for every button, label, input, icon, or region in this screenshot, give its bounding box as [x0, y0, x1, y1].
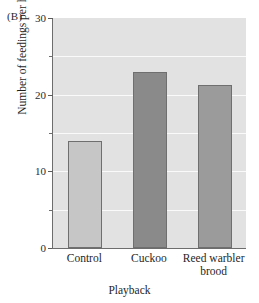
plot-area: 0102030 [52, 18, 246, 248]
x-axis-line [52, 248, 246, 249]
bar-1 [68, 141, 102, 248]
y-tick-minor [49, 133, 53, 134]
category-label-3: Reed warbler brood [181, 252, 246, 277]
figure-panel-b: (B) 0102030 ControlCuckooReed warbler br… [0, 0, 259, 303]
y-tick-minor [49, 56, 53, 57]
y-tick-label: 10 [35, 166, 46, 177]
y-tick-label: 20 [35, 89, 46, 100]
y-tick-minor [49, 210, 53, 211]
y-tick-major [48, 171, 53, 172]
bar-2 [133, 72, 167, 248]
y-tick-major [48, 95, 53, 96]
category-label-1: Control [52, 252, 117, 265]
category-label-2: Cuckoo [117, 252, 182, 265]
x-axis-title: Playback [0, 284, 259, 296]
bar-3 [198, 85, 232, 248]
gridline [53, 56, 246, 57]
y-tick-label: 0 [41, 243, 47, 254]
y-axis-title: Number of feedings per hour [16, 0, 28, 138]
y-tick-label: 30 [35, 13, 46, 24]
y-tick-major [48, 18, 53, 19]
